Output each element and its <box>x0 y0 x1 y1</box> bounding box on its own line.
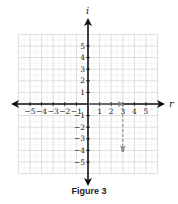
y-tick-label: −4 <box>74 146 85 155</box>
vectors <box>88 104 124 152</box>
x-tick-label: −4 <box>36 107 47 116</box>
complex-plane-diagram: −5−4−3−2−11234554321−1−2−3−4−5 r i <box>0 0 178 204</box>
x-tick-label: 4 <box>132 107 137 116</box>
y-tick-label: −5 <box>74 158 85 167</box>
y-tick-label: 5 <box>80 42 85 51</box>
x-axis-label: r <box>169 98 175 109</box>
figure-caption: Figure 3 <box>0 186 178 196</box>
x-tick-label: −2 <box>59 107 70 116</box>
x-tick-label: 2 <box>109 107 114 116</box>
y-tick-label: 4 <box>80 53 85 62</box>
y-tick-label: −2 <box>74 123 85 132</box>
x-tick-label: 1 <box>97 107 102 116</box>
x-tick-label: −3 <box>48 107 59 116</box>
complex-point <box>121 149 124 152</box>
y-tick-label: 2 <box>80 76 85 85</box>
x-tick-label: −5 <box>24 107 35 116</box>
y-tick-label: 3 <box>80 65 85 74</box>
y-tick-label: −3 <box>74 134 85 143</box>
y-axis-label: i <box>86 5 89 16</box>
y-tick-label: 1 <box>80 88 85 97</box>
y-tick-label: −1 <box>74 111 85 120</box>
x-tick-label: 5 <box>144 107 149 116</box>
